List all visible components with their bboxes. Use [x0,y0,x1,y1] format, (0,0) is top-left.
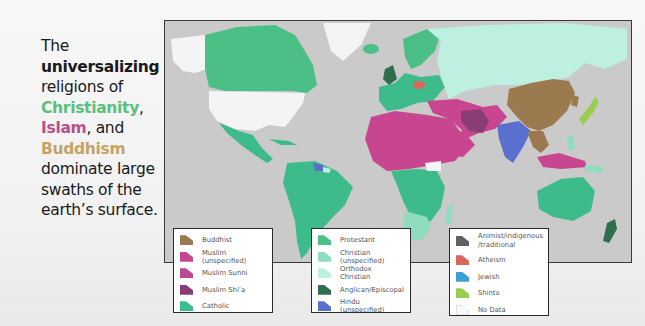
legend-label: Catholic [202,302,230,310]
christian-unspecified-swatch-icon [318,252,331,262]
region-papua [585,165,603,173]
legend-label: Christian (unspecified) [340,249,404,265]
region-indonesia [537,153,587,169]
no-data-swatch-icon [456,305,469,315]
islam-word: Islam [41,119,86,137]
legend-label: Protestant [340,236,375,244]
muslim-sunni-swatch-icon [180,268,193,278]
orthodox-swatch-icon [318,268,331,278]
atheism-swatch-icon [456,255,469,265]
caption-comma: , [139,99,144,117]
region-caribbean [269,139,297,145]
caption-line-1: The [41,36,166,57]
hindu-swatch-icon [318,301,331,311]
legend-item-muslim-sunni: Muslim Sunni [180,265,266,282]
caption-line-2: universalizing [41,57,166,78]
legend-item-hindu: Hindu (unspecified) [318,298,404,315]
muslim-shia-swatch-icon [180,285,193,295]
legend-item-no-data: No Data [456,302,542,319]
anglican-swatch-icon [318,285,331,295]
legend-box-1: Buddhist Muslim (unspecified) Muslim Sun… [173,228,273,313]
buddhism-word: Buddhism [41,139,166,160]
caption-line-3: religions of [41,77,166,98]
legend-label: Hindu (unspecified) [340,298,404,314]
legend-label: Orthodox Christian [340,265,404,281]
legend-label: Shinto [478,289,500,297]
legend-item-shinto: Shinto [456,285,542,302]
region-canada [205,25,317,93]
legend-item-animist: Animist/indigenous /traditional [456,230,542,252]
legend-label: No Data [478,306,506,314]
caption-line-8: swaths of the [41,180,166,201]
world-religion-map [164,20,632,263]
legend-item-orthodox-christian: Orthodox Christian [318,265,404,282]
region-czechia [413,81,425,89]
legend-label: Muslim (unspecified) [202,249,266,265]
legend-item-christian-unspecified: Christian (unspecified) [318,249,404,266]
region-australia [537,177,595,221]
legend-item-muslim-unspecified: Muslim (unspecified) [180,249,266,266]
legend-box-3: Animist/indigenous /traditional Atheism … [449,228,549,316]
caption-line-7: dominate large [41,159,166,180]
caption-text: The universalizing religions of Christia… [41,36,166,221]
shinto-swatch-icon [456,288,469,298]
region-greenland [323,23,371,61]
legend-item-jewish: Jewish [456,269,542,286]
region-philippines [567,135,575,151]
caption-line-9: earth’s surface. [41,200,166,221]
buddhist-swatch-icon [180,235,193,245]
legend-label: Jewish [478,273,499,281]
legend-label: Muslim Sunni [202,269,247,277]
catholic-swatch-icon [180,301,193,311]
caption-line-5: Islam, and [41,118,166,139]
legend-item-catholic: Catholic [180,298,266,315]
region-india [497,121,531,163]
region-japan [579,97,599,125]
christianity-word: Christianity [41,99,139,117]
legend-label: Animist/indigenous /traditional [478,232,543,250]
legend-item-protestant: Protestant [318,232,404,249]
region-alaska [171,35,207,73]
legend-item-muslim-shia: Muslim Shi’a [180,282,266,299]
legend-item-atheism: Atheism [456,252,542,269]
animist-swatch-icon [456,236,469,246]
map-graphic [165,21,632,263]
caption-line-4: Christianity, [41,98,166,119]
legend-item-buddhist: Buddhist [180,232,266,249]
region-iceland [363,44,379,54]
caption-and: , and [86,119,124,137]
region-new-zealand [603,219,617,243]
legend-label: Atheism [478,256,506,264]
legend-label-line-2: /traditional [478,241,543,250]
region-uk [383,65,397,85]
legend-box-2: Protestant Christian (unspecified) Ortho… [311,228,411,313]
legend-label: Muslim Shi’a [202,286,245,294]
protestant-swatch-icon [318,235,331,245]
region-madagascar [445,205,453,225]
jewish-swatch-icon [456,272,469,282]
legend-item-anglican: Anglican/Episcopal [318,282,404,299]
muslim-unspecified-swatch-icon [180,252,193,262]
legend-label-line-1: Animist/indigenous [478,232,543,241]
legend-label: Anglican/Episcopal [340,286,404,294]
region-se-asia [527,131,549,153]
legend-label: Buddhist [202,236,232,244]
